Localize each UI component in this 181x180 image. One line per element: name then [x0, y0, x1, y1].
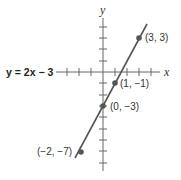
point-neg2-neg7: [78, 149, 84, 155]
y-axis-label: y: [99, 3, 106, 17]
point-1-neg1: [112, 80, 118, 86]
point-0-neg3: [100, 103, 106, 109]
point-label-3-3: (3, 3): [145, 32, 168, 43]
x-axis-label: x: [163, 65, 170, 79]
equation-label: y = 2x − 3: [6, 66, 53, 78]
point-label-neg2-neg7: (−2, −7): [37, 146, 72, 157]
point-3-3: [136, 35, 142, 41]
graph-line: [75, 24, 147, 158]
coordinate-plane: y x y = 2x − 3 (3, 3) (1, −1) (0, −3) (−…: [0, 0, 181, 180]
point-label-0-neg3: (0, −3): [110, 101, 139, 112]
point-label-1-neg1: (1, −1): [120, 78, 149, 89]
